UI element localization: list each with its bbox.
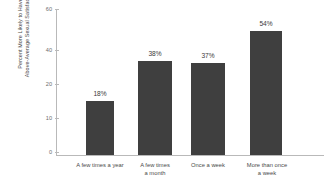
y-tick-mark (55, 152, 59, 153)
x-category-line: Once a week (191, 161, 225, 169)
bar-a-few-times-a-year (86, 101, 114, 155)
bar-value-label: 54% (259, 20, 272, 27)
y-axis-title-line-1: Percent More Likely to Have (17, 0, 24, 103)
x-category-line: A few times a year (76, 161, 123, 169)
y-axis-title-line-2: Above-Average Sexual Satisfaction (24, 0, 31, 103)
x-category-line: More than once (247, 161, 287, 169)
x-category-label-1: A few times a month (140, 161, 170, 177)
y-tick-label: 40 (46, 47, 52, 53)
bar-value-label: 38% (148, 50, 161, 57)
bar-value-label: 37% (201, 52, 214, 59)
y-axis-title: Percent More Likely to Have Above-Averag… (17, 0, 32, 103)
y-tick-label: 60 (46, 6, 52, 12)
x-category-line: A few times (140, 161, 170, 169)
x-category-label-3: More than once a week (247, 161, 287, 177)
bar-value-label: 18% (93, 90, 106, 97)
bar-once-a-week (191, 63, 225, 155)
y-tick-label: 0 (49, 149, 52, 155)
x-category-label-2: Once a week (191, 161, 225, 169)
y-tick-label: 10 (46, 115, 52, 121)
x-category-label-0: A few times a year (76, 161, 123, 169)
bar-more-than-once-a-week (250, 31, 282, 155)
x-category-line: a week (247, 169, 287, 177)
y-tick-mark (55, 9, 59, 10)
bar-a-few-times-a-month (138, 61, 172, 155)
plot-area: 0 10 20 40 60 18% 38% 37% 54% A few ti (56, 9, 324, 155)
y-tick-mark (55, 118, 59, 119)
y-tick-mark (55, 50, 59, 51)
y-tick-mark (55, 84, 59, 85)
y-tick-label: 20 (46, 81, 52, 87)
bar-chart: Percent More Likely to Have Above-Averag… (0, 0, 328, 189)
y-axis-line (56, 9, 57, 155)
x-axis-line (56, 155, 324, 156)
x-category-line: a month (140, 169, 170, 177)
